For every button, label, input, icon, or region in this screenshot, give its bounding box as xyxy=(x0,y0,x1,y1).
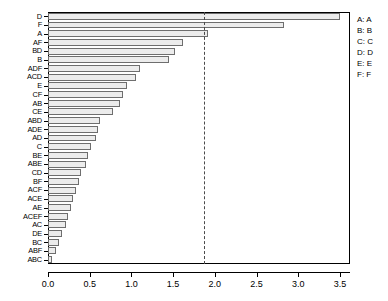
bar xyxy=(48,178,79,185)
x-axis-tick xyxy=(48,272,49,277)
bar xyxy=(48,65,140,72)
y-axis-tick xyxy=(44,77,48,78)
bar xyxy=(48,143,91,150)
y-axis-label: DE xyxy=(2,230,42,237)
y-axis-label: BE xyxy=(2,152,42,159)
y-axis-label: B xyxy=(2,56,42,63)
x-axis-tick-label: 3.0 xyxy=(278,280,318,289)
x-axis-tick-label: 0.0 xyxy=(28,280,68,289)
y-axis-label: AE xyxy=(2,204,42,211)
y-axis-tick xyxy=(44,155,48,156)
bar xyxy=(48,100,120,107)
y-axis-tick xyxy=(44,147,48,148)
y-axis-tick xyxy=(44,190,48,191)
bar xyxy=(48,126,98,133)
y-axis-label: ADE xyxy=(2,126,42,133)
y-axis-tick xyxy=(44,173,48,174)
legend-entry: F: F xyxy=(357,69,373,80)
y-axis-tick xyxy=(44,42,48,43)
y-axis-label: ACEF xyxy=(2,213,42,220)
legend-entry: E: E xyxy=(357,58,373,69)
y-axis-tick xyxy=(44,129,48,130)
y-axis-tick xyxy=(44,208,48,209)
y-axis-label: AF xyxy=(2,39,42,46)
significance-reference-line xyxy=(204,12,205,264)
y-axis-tick xyxy=(44,199,48,200)
bar xyxy=(48,195,73,202)
x-axis-tick xyxy=(90,272,91,277)
y-axis-label: AB xyxy=(2,100,42,107)
y-axis-tick xyxy=(44,225,48,226)
legend-entry: A: A xyxy=(357,14,373,25)
y-axis-label: AC xyxy=(2,221,42,228)
x-axis-tick-label: 0.5 xyxy=(70,280,110,289)
bar xyxy=(48,74,136,81)
y-axis-label: CF xyxy=(2,91,42,98)
bar xyxy=(48,48,175,55)
y-axis-label: ACF xyxy=(2,186,42,193)
x-axis-tick-label: 1.5 xyxy=(153,280,193,289)
bar xyxy=(48,230,62,237)
y-axis-tick xyxy=(44,112,48,113)
y-axis-label: BD xyxy=(2,47,42,54)
x-axis-tick xyxy=(215,272,216,277)
x-axis-tick xyxy=(340,272,341,277)
y-axis-label: ABF xyxy=(2,247,42,254)
bar xyxy=(48,213,68,220)
y-axis-label: CE xyxy=(2,108,42,115)
y-axis-tick xyxy=(44,34,48,35)
y-axis-label: E xyxy=(2,82,42,89)
bar xyxy=(48,152,88,159)
y-axis-label: ACE xyxy=(2,195,42,202)
y-axis-label: C xyxy=(2,143,42,150)
y-axis-tick xyxy=(44,103,48,104)
bar xyxy=(48,39,183,46)
x-axis-tick-label: 1.0 xyxy=(111,280,151,289)
y-axis-tick xyxy=(44,121,48,122)
y-axis-label: CD xyxy=(2,169,42,176)
bar xyxy=(48,22,284,29)
y-axis-tick xyxy=(44,60,48,61)
bar xyxy=(48,82,127,89)
y-axis-tick xyxy=(44,242,48,243)
y-axis-tick xyxy=(44,181,48,182)
y-axis-label: A xyxy=(2,30,42,37)
y-axis-label: ADF xyxy=(2,65,42,72)
y-axis-tick xyxy=(44,164,48,165)
y-axis-label: ACD xyxy=(2,73,42,80)
bar xyxy=(48,256,52,263)
y-axis-tick xyxy=(44,251,48,252)
y-axis-tick xyxy=(44,86,48,87)
x-axis-line xyxy=(48,272,350,273)
y-axis-label: ABC xyxy=(2,256,42,263)
legend-entry: B: B xyxy=(357,25,373,36)
bar xyxy=(48,247,56,254)
bar xyxy=(48,187,76,194)
bar xyxy=(48,135,96,142)
y-axis-label: AD xyxy=(2,134,42,141)
y-axis-tick xyxy=(44,234,48,235)
y-axis-tick xyxy=(44,16,48,17)
y-axis-tick xyxy=(44,260,48,261)
x-axis-tick-label: 3.5 xyxy=(320,280,360,289)
x-axis-tick xyxy=(131,272,132,277)
bar xyxy=(48,239,59,246)
bar xyxy=(48,204,71,211)
y-axis-label: BC xyxy=(2,239,42,246)
y-axis-label: D xyxy=(2,13,42,20)
bar xyxy=(48,117,100,124)
bar xyxy=(48,56,169,63)
y-axis-tick xyxy=(44,51,48,52)
x-axis-tick-label: 2.0 xyxy=(195,280,235,289)
bar xyxy=(48,169,81,176)
bar xyxy=(48,30,208,37)
y-axis-tick xyxy=(44,95,48,96)
y-axis-label: BF xyxy=(2,178,42,185)
y-axis-tick xyxy=(44,138,48,139)
y-axis-label: F xyxy=(2,21,42,28)
x-axis-tick xyxy=(298,272,299,277)
x-axis-tick-label: 2.5 xyxy=(237,280,277,289)
bar xyxy=(48,13,340,20)
y-axis-tick xyxy=(44,216,48,217)
legend-entry: D: D xyxy=(357,47,373,58)
